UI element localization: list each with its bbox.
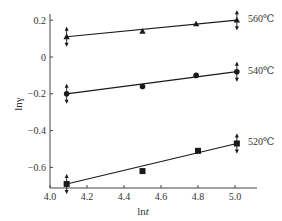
- error-bar-cap-down: [65, 100, 69, 104]
- series-label: 540℃: [248, 65, 274, 76]
- fit-line: [67, 20, 237, 37]
- y-tick-label: 0.2: [34, 15, 47, 26]
- plot-series: [63, 10, 240, 194]
- circle-marker: [64, 91, 70, 97]
- y-tick-label: −0.4: [28, 125, 46, 136]
- x-tick-label: 4.0: [44, 191, 57, 202]
- square-marker: [64, 181, 70, 187]
- fit-line: [67, 72, 237, 94]
- y-tick-label: −0.6: [28, 162, 46, 173]
- circle-marker: [234, 69, 240, 75]
- x-axis-title: lnt: [137, 205, 150, 217]
- error-bar-cap-up: [65, 27, 69, 31]
- y-axis-title: lnγ: [12, 97, 24, 111]
- series-triangle: [63, 10, 240, 47]
- series-label: 520℃: [248, 136, 274, 147]
- square-marker: [234, 140, 240, 146]
- x-tick-label: 4.4: [118, 191, 131, 202]
- error-bar-cap-up: [65, 174, 69, 178]
- y-tick-label: −0.2: [28, 88, 46, 99]
- x-tick-label: 4.6: [155, 191, 168, 202]
- chart: 0.20−0.2−0.4−0.64.04.24.44.64.85.0 lntln…: [0, 0, 282, 221]
- circle-marker: [193, 73, 199, 79]
- error-bar-cap-down: [235, 26, 239, 30]
- error-bar-cap-down: [235, 149, 239, 153]
- error-bar-cap-up: [235, 133, 239, 137]
- series-label: 560℃: [248, 13, 274, 24]
- series-circle: [64, 62, 240, 104]
- error-bar-cap-up: [235, 10, 239, 14]
- error-bar-cap-up: [65, 84, 69, 88]
- square-marker: [195, 148, 201, 154]
- series-square: [64, 133, 240, 193]
- x-tick-label: 4.2: [81, 191, 94, 202]
- square-marker: [140, 168, 146, 174]
- y-tick-label: 0: [41, 52, 46, 63]
- error-bar-cap-down: [235, 78, 239, 82]
- fit-line: [67, 143, 237, 183]
- x-tick-label: 4.8: [192, 191, 205, 202]
- error-bar-cap-down: [65, 190, 69, 194]
- error-bar-cap-up: [235, 62, 239, 66]
- error-bar-cap-down: [65, 43, 69, 47]
- circle-marker: [140, 84, 146, 90]
- x-tick-label: 5.0: [229, 191, 242, 202]
- triangle-marker: [234, 17, 240, 23]
- x-axis-title-var: t: [146, 205, 150, 217]
